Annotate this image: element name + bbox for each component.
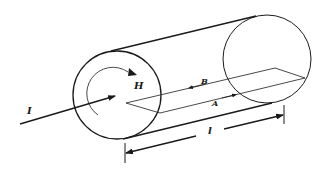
length-dimension <box>125 105 284 163</box>
cylinder-diagram: I H B A l <box>0 0 327 170</box>
cylinder <box>73 15 311 139</box>
path-a-arrow <box>222 95 236 98</box>
current-label: I <box>26 105 32 116</box>
cylinder-end-near <box>73 51 161 139</box>
current-arrow <box>20 96 115 124</box>
length-label: l <box>208 125 212 136</box>
field-arrowhead-icon <box>128 68 137 76</box>
cylinder-end-far <box>223 15 311 103</box>
cylinder-top-edge <box>111 16 256 51</box>
field-rotation-arc <box>87 67 128 115</box>
field-label: H <box>133 80 144 91</box>
path-b-label: B <box>200 76 208 86</box>
diagram-svg: I H B A l <box>0 0 327 170</box>
path-a-label: A <box>211 98 218 108</box>
